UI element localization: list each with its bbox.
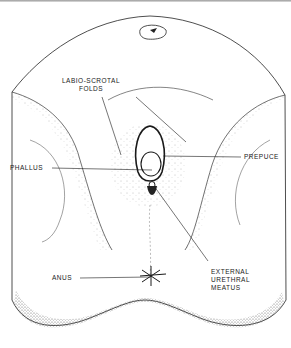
label-line: MEATUS (211, 284, 250, 292)
label-line: FOLDS (62, 85, 120, 93)
label-prepuce: PREPUCE (244, 153, 279, 161)
label-labio-scrotal-folds: LABIO-SCROTAL FOLDS (62, 77, 120, 93)
label-external-urethral-meatus: EXTERNAL URETHRAL MEATUS (211, 268, 250, 292)
diagram-canvas: LABIO-SCROTAL FOLDS PHALLUS PREPUCE ANUS… (0, 0, 291, 348)
anatomy-drawing (0, 0, 291, 348)
label-phallus: PHALLUS (10, 164, 43, 172)
label-line: LABIO-SCROTAL (62, 77, 120, 85)
label-anus: ANUS (52, 274, 72, 282)
label-line: URETHRAL (211, 276, 250, 284)
phallus (141, 152, 161, 176)
label-line: EXTERNAL (211, 268, 250, 276)
